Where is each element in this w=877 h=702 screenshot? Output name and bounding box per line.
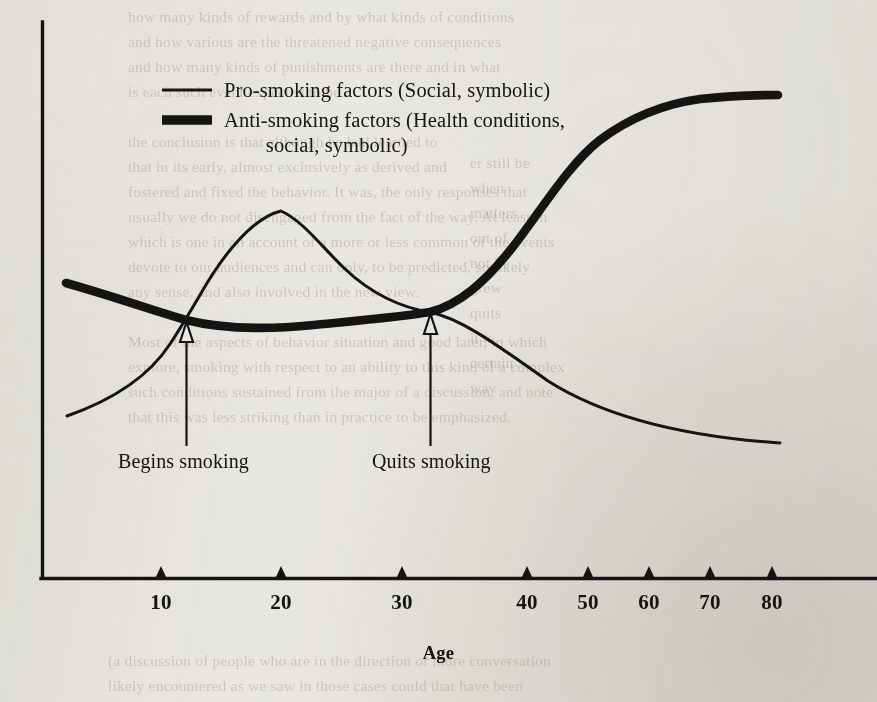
x-tick-70 (704, 566, 716, 579)
scanned-page: how many kinds of rewards and by what ki… (0, 0, 877, 702)
x-tick-label-50: 50 (577, 590, 599, 615)
x-tick-label-70: 70 (699, 590, 721, 615)
legend-label-pro-smoking: Pro-smoking factors (Social, symbolic) (224, 78, 550, 103)
annotation-label-quits-smoking: Quits smoking (372, 450, 491, 473)
begins-smoking-arrow (180, 322, 193, 446)
x-tick-label-80: 80 (761, 590, 783, 615)
curve-pro-smoking (67, 211, 780, 443)
x-tick-label-40: 40 (516, 590, 538, 615)
annotation-arrows (180, 314, 437, 446)
x-tick-label-30: 30 (391, 590, 413, 615)
x-tick-80 (766, 566, 778, 579)
legend-swatches (162, 90, 212, 120)
x-axis-title: Age (0, 643, 877, 664)
x-tick-20 (275, 566, 287, 579)
x-tick-label-20: 20 (270, 590, 292, 615)
legend-label-anti-smoking-line1: Anti-smoking factors (Health conditions, (224, 109, 565, 131)
quits-smoking-arrow (424, 314, 437, 446)
legend-label-anti-smoking: Anti-smoking factors (Health conditions,… (224, 108, 565, 158)
x-tick-10 (155, 566, 167, 579)
x-tick-40 (521, 566, 533, 579)
x-tick-60 (643, 566, 655, 579)
line-chart (0, 0, 877, 702)
quits-smoking-arrow-head (424, 314, 437, 334)
x-tick-label-10: 10 (150, 590, 172, 615)
legend-label-anti-smoking-line2: social, symbolic) (224, 134, 408, 156)
x-tick-50 (582, 566, 594, 579)
annotation-label-begins-smoking: Begins smoking (118, 450, 249, 473)
x-tick-30 (396, 566, 408, 579)
x-tick-label-60: 60 (638, 590, 660, 615)
